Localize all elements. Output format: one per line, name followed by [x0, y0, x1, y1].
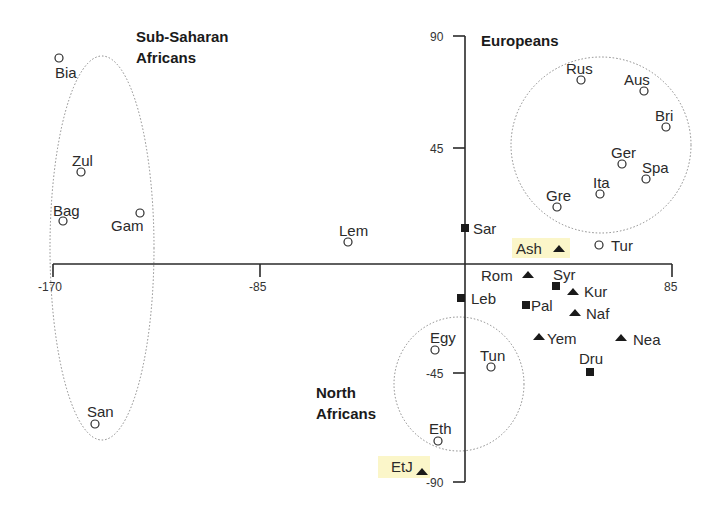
point-label: Ash — [516, 240, 542, 257]
point-label: Leb — [471, 290, 496, 307]
point-label: Yem — [547, 330, 576, 347]
point-label: Dru — [579, 350, 603, 367]
point-label: Gam — [111, 217, 144, 234]
marker-circle — [640, 87, 648, 95]
point-label: Nea — [633, 331, 661, 348]
point-label: Egy — [430, 329, 456, 346]
marker-square — [461, 224, 469, 232]
marker-circle — [595, 241, 603, 249]
point-label: Syr — [553, 266, 576, 283]
point-label: Zul — [72, 152, 93, 169]
point-label: Gre — [546, 187, 571, 204]
marker-triangle — [569, 309, 581, 316]
cluster-north-africans — [394, 317, 524, 451]
scatter-plot: -170 -85 85 90 45 -45 -90 Sub-Saharan Af… — [0, 0, 716, 515]
marker-square — [586, 368, 594, 376]
point-label: EtJ — [391, 458, 413, 475]
point-label: Rus — [566, 60, 593, 77]
marker-circle — [77, 168, 85, 176]
marker-circle — [431, 346, 439, 354]
point-label: Aus — [624, 71, 650, 88]
point-label: Sar — [473, 220, 496, 237]
point-label: Kur — [584, 283, 607, 300]
x-tick-label: 85 — [664, 280, 678, 294]
group-label-sub-saharan: Africans — [136, 49, 196, 66]
marker-circle — [553, 203, 561, 211]
cluster-sub-saharan — [50, 56, 154, 440]
marker-circle — [91, 420, 99, 428]
point-label: Ger — [611, 144, 636, 161]
marker-circle — [487, 363, 495, 371]
point-label: Rom — [481, 267, 513, 284]
marker-square — [457, 294, 465, 302]
point-label: Tun — [480, 347, 505, 364]
point-label: Naf — [586, 305, 610, 322]
marker-circle — [642, 175, 650, 183]
marker-triangle — [533, 333, 545, 340]
marker-circle — [344, 238, 352, 246]
point-label: Pal — [531, 297, 553, 314]
group-label-europeans: Europeans — [481, 32, 559, 49]
point-label: Bag — [53, 202, 80, 219]
group-label-north-africans: Africans — [316, 405, 376, 422]
x-tick-label: -170 — [38, 280, 62, 294]
marker-triangle — [615, 334, 627, 341]
point-label: Spa — [642, 159, 669, 176]
cluster-europeans — [511, 57, 691, 233]
marker-triangle — [522, 271, 534, 278]
marker-circle — [434, 437, 442, 445]
y-tick-label: -90 — [426, 476, 444, 490]
marker-circle — [618, 160, 626, 168]
y-tick-label: -45 — [426, 367, 444, 381]
point-label: Bia — [55, 64, 77, 81]
y-tick-label: 45 — [430, 142, 444, 156]
point-label: Lem — [339, 222, 368, 239]
marker-circle — [577, 76, 585, 84]
point-label: Eth — [429, 420, 452, 437]
y-tick-label: 90 — [430, 30, 444, 44]
marker-circle — [596, 190, 604, 198]
point-label: Tur — [611, 237, 633, 254]
marker-square — [522, 301, 530, 309]
marker-triangle — [567, 288, 579, 295]
points — [55, 54, 670, 445]
x-tick-label: -85 — [249, 280, 267, 294]
point-label: San — [87, 403, 114, 420]
point-label: Bri — [655, 107, 673, 124]
marker-square — [552, 282, 560, 290]
group-label-sub-saharan: Sub-Saharan — [136, 28, 229, 45]
point-label: Ita — [593, 174, 610, 191]
marker-circle — [136, 209, 144, 217]
marker-circle — [55, 54, 63, 62]
x-axis: -170 -85 85 — [38, 264, 678, 294]
marker-circle — [662, 123, 670, 131]
group-label-north-africans: North — [316, 384, 356, 401]
